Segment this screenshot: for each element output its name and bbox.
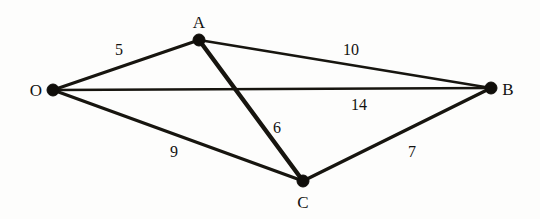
graph-node-c [297,175,309,187]
node-label-b: B [502,81,513,98]
node-label-a: A [193,14,205,31]
edges-group [53,40,491,181]
graph-edge-o-a [53,40,199,90]
graph-node-a [193,34,205,46]
edge-weight-label-o-b: 14 [351,97,367,113]
edge-weight-label-o-c: 9 [170,144,178,160]
node-label-o: O [30,82,42,99]
graph-canvas [0,0,540,219]
node-label-c: C [297,194,308,211]
edge-weight-label-a-b: 10 [343,42,359,58]
graph-edge-a-c [199,40,303,181]
graph-node-b [485,82,497,94]
edge-weight-label-o-a: 5 [115,42,123,58]
edge-weight-label-c-b: 7 [408,144,416,160]
graph-diagram: 51014697OABC [0,0,540,219]
graph-edge-o-b [53,88,491,90]
edge-weight-label-a-c: 6 [273,120,281,136]
graph-edge-o-c [53,90,303,181]
graph-node-o [47,84,59,96]
graph-edge-c-b [303,88,491,181]
